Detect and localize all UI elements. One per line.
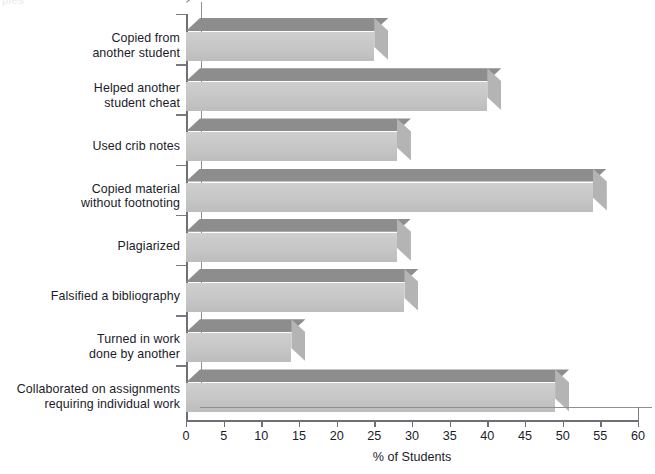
x-axis-tick	[487, 420, 488, 427]
bar	[186, 219, 411, 262]
bar-front-face	[186, 32, 374, 61]
category-label: Copied fromanother student	[0, 31, 180, 60]
x-axis-tick	[224, 420, 225, 427]
bar-top-face	[186, 369, 569, 382]
x-axis-tick-label: 40	[480, 429, 494, 443]
x-axis-tick	[525, 420, 526, 427]
bar	[186, 269, 418, 312]
category-label: Turned in workdone by another	[0, 332, 180, 361]
bar-top-face	[186, 118, 411, 131]
bar-front-face	[186, 283, 404, 312]
bar-top-face	[186, 269, 418, 282]
category-label: Collaborated on assignmentsrequiring ind…	[0, 382, 180, 411]
x-axis-tick-label: 45	[518, 429, 532, 443]
category-label: Falsified a bibliography	[0, 289, 180, 304]
category-label-line: Turned in work	[0, 332, 180, 347]
category-label-line: student cheat	[0, 96, 180, 111]
category-label: Helped anotherstudent cheat	[0, 81, 180, 110]
y-axis-tick	[176, 215, 186, 216]
x-axis-right-cap	[638, 407, 639, 421]
bar-top-face	[186, 68, 501, 81]
y-axis-tick	[176, 315, 186, 316]
x-axis-tick	[563, 420, 564, 427]
category-label: Used crib notes	[0, 139, 180, 154]
x-axis-tick-label: 0	[182, 429, 189, 443]
category-label-line: without footnoting	[0, 196, 180, 211]
x-axis-tick	[412, 420, 413, 427]
bar	[186, 68, 501, 111]
x-axis-tick-label: 35	[443, 429, 457, 443]
category-label-line: Helped another	[0, 81, 180, 96]
category-label-line: Collaborated on assignments	[0, 382, 180, 397]
bar-front-face	[186, 132, 397, 161]
y-axis-tick	[176, 114, 186, 115]
category-label-line: done by another	[0, 347, 180, 362]
y-axis-tick	[176, 64, 186, 65]
x-axis-tick-label: 25	[367, 429, 381, 443]
bar-top-face	[186, 219, 411, 232]
y-axis-tick	[176, 265, 186, 266]
bar	[186, 118, 411, 161]
bar	[186, 18, 388, 61]
bar-front-face	[186, 333, 291, 362]
x-axis-tick-label: 20	[330, 429, 344, 443]
category-label-line: Falsified a bibliography	[0, 289, 180, 304]
y-axis-tick	[176, 165, 186, 166]
x-axis-tick	[337, 420, 338, 427]
category-label-line: another student	[0, 46, 180, 61]
category-label-line: Used crib notes	[0, 139, 180, 154]
x-axis-tick	[186, 420, 187, 427]
bar-front-face	[186, 82, 487, 111]
bar-top-face	[186, 18, 388, 31]
plot-area: 051015202530354045505560 % of Students	[186, 0, 655, 474]
x-axis-tick-label: 10	[254, 429, 268, 443]
category-label-line: Plagiarized	[0, 239, 180, 254]
x-axis-tick	[374, 420, 375, 427]
x-axis-tick	[638, 420, 639, 427]
x-axis-tick-label: 15	[292, 429, 306, 443]
category-label-line: requiring individual work	[0, 397, 180, 412]
category-axis-labels: Copied fromanother studentHelped another…	[0, 0, 180, 420]
bar-chart: ples Copied fromanother studentHelped an…	[0, 0, 655, 474]
bar-front-face	[186, 233, 397, 262]
category-label-line: Copied material	[0, 182, 180, 197]
x-axis-tick-label: 5	[220, 429, 227, 443]
x-axis-tick	[299, 420, 300, 427]
x-axis-tick-label: 60	[631, 429, 645, 443]
x-axis-tick-label: 50	[556, 429, 570, 443]
bar-top-face	[186, 169, 607, 182]
x-axis-tick-label: 30	[405, 429, 419, 443]
category-label: Plagiarized	[0, 239, 180, 254]
x-axis-back-edge	[200, 407, 652, 408]
category-label: Copied materialwithout footnoting	[0, 182, 180, 211]
bar	[186, 369, 569, 412]
bar-top-face	[186, 319, 305, 332]
x-axis-title: % of Students	[186, 450, 638, 464]
x-axis-tick	[450, 420, 451, 427]
bar	[186, 319, 305, 362]
bar	[186, 169, 607, 212]
x-axis-tick-label: 55	[593, 429, 607, 443]
bar-front-face	[186, 183, 593, 212]
x-axis-tick	[261, 420, 262, 427]
category-label-line: Copied from	[0, 31, 180, 46]
y-axis-tick	[176, 14, 186, 15]
x-axis-tick	[600, 420, 601, 427]
y-axis-tick	[176, 365, 186, 366]
